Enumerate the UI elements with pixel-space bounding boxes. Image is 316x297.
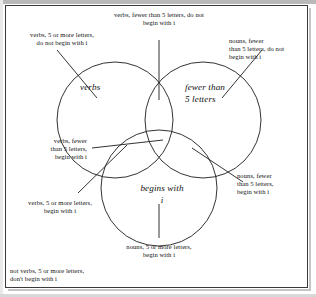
venn-diagram-figure: verbs fewer than 5 letters begins with i…: [0, 0, 316, 297]
region-label-verbs-i-only: verbs, 5 or more letters, begin with i: [5, 199, 115, 215]
region-label-verbs-and-i: verbs, fewer than 5 letters, begin with …: [12, 137, 87, 162]
circle-fewer-than-5-letters: [145, 62, 261, 178]
region-label-i-only: nouns, 5 or more letters, begin with i: [99, 243, 219, 259]
region-label-fewer-and-i: nouns, fewer than 5 letters, begin with …: [237, 172, 313, 197]
leader-verbs-and-i: [92, 140, 163, 148]
set-label-verbs: verbs: [80, 82, 140, 94]
leader-fewer-and-i: [192, 148, 243, 182]
set-label-fewer-than-5-letters: fewer than 5 letters: [185, 82, 263, 105]
region-label-universe-only: not verbs, 5 or more letters, don't begi…: [10, 267, 160, 283]
region-label-verbs-and-fewer: verbs, fewer than 5 letters, do not begi…: [96, 11, 222, 27]
region-label-verbs-only: verbs, 5 or more letters, do not begin w…: [6, 31, 118, 47]
set-label-begins-with-i: begins with i: [123, 183, 201, 206]
region-label-fewer-only: nouns, fewer than 5 letters, do not begi…: [229, 37, 311, 62]
